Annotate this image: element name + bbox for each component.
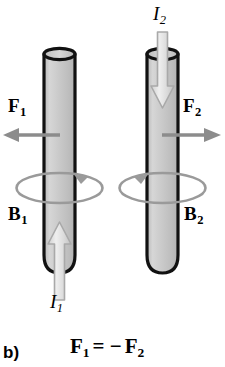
- force-label-left-symbol: F: [8, 95, 20, 116]
- left-wire-top-rim: [44, 48, 75, 59]
- force-label-right-subscript: 2: [195, 105, 202, 119]
- equation-relation: = −: [90, 334, 125, 358]
- field-label-left-subscript: 1: [21, 213, 28, 227]
- panel-label: b): [3, 344, 19, 361]
- field-label-right-subscript: 2: [197, 213, 204, 227]
- diagram-canvas: [0, 0, 225, 367]
- current-label-right: I2: [153, 4, 166, 26]
- equation-rhs-symbol: F: [125, 334, 138, 358]
- field-label-right-symbol: B: [184, 203, 197, 224]
- field-label-left: B1: [8, 204, 27, 226]
- field-label-left-symbol: B: [8, 203, 21, 224]
- force-equation: F1= −F2: [70, 336, 144, 359]
- force-label-right-symbol: F: [183, 95, 195, 116]
- force-label-left: F1: [8, 96, 26, 118]
- current-label-left: I1: [50, 292, 63, 314]
- current-label-left-subscript: 1: [56, 301, 63, 315]
- equation-lhs-symbol: F: [70, 334, 83, 358]
- current-label-right-subscript: 2: [159, 13, 166, 27]
- physics-figure-parallel-wires: F1 F2 B1 B2 I2 I1 F1= −F2 b): [0, 0, 225, 367]
- force-label-left-subscript: 1: [20, 105, 27, 119]
- equation-lhs-subscript: 1: [83, 345, 90, 360]
- field-label-right: B2: [184, 204, 203, 226]
- equation-rhs-subscript: 2: [138, 345, 145, 360]
- force-label-right: F2: [183, 96, 201, 118]
